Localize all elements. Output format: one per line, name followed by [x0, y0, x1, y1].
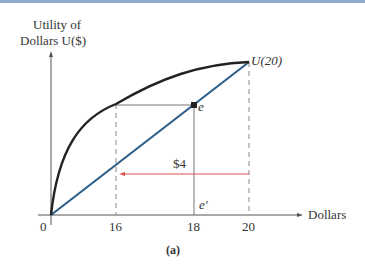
x-axis-label: Dollars [308, 207, 346, 223]
e-label: e [198, 99, 204, 115]
tick-0: 0 [40, 219, 47, 235]
tick-18: 18 [187, 219, 200, 235]
tick-20: 20 [242, 219, 255, 235]
e-prime-label: e' [199, 197, 208, 213]
y-axis-arrow-icon [49, 51, 53, 57]
u20-label: U(20) [251, 53, 282, 69]
y-axis-label-line2: Dollars U($) [20, 33, 86, 49]
arrow-head-icon [119, 172, 125, 176]
dollar4-label: $4 [173, 156, 186, 172]
caption: (a) [166, 243, 180, 258]
point-e [191, 102, 197, 108]
x-axis-arrow-icon [297, 213, 303, 217]
y-axis-label-line1: Utility of [33, 17, 81, 33]
tick-16: 16 [109, 219, 122, 235]
